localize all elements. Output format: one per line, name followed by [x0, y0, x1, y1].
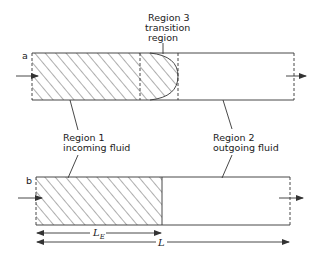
region-1-incoming-fluid-b [36, 177, 162, 225]
region-3-desc-line2: region [148, 32, 178, 43]
panel-a: a Region 3 transition region [16, 12, 306, 100]
region-2-leader-a [223, 100, 232, 129]
region-1-desc: incoming fluid [63, 142, 130, 153]
panel-a-label: a [22, 50, 28, 61]
region-1-incoming-fluid-a [32, 53, 140, 100]
flow-regions-diagram: a Region 3 transition region Region 1 in… [0, 0, 318, 256]
region-2-leader-b [222, 155, 232, 178]
dimension-total-length: L [37, 237, 289, 248]
dimension-entry-length: LE [37, 227, 161, 241]
region-2-desc: outgoing fluid [213, 142, 279, 153]
region-3-transition-cap [140, 53, 180, 100]
panel-b: b [18, 155, 303, 225]
panel-b-label: b [26, 175, 32, 186]
dim-le-label: LE [92, 227, 105, 241]
dim-l-label: L [157, 237, 165, 248]
region-1-leader-b [68, 155, 78, 178]
region-1-leader-a [70, 100, 78, 130]
